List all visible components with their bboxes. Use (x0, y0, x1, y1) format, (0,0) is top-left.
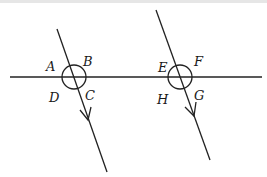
label-e: E (157, 60, 168, 75)
label-a: A (45, 59, 55, 74)
label-g: G (194, 88, 204, 103)
left-transversal (57, 29, 107, 172)
right-transversal (156, 10, 210, 160)
label-h: H (156, 92, 169, 107)
parallel-lines-diagram: A B C D E F G H (0, 0, 267, 177)
label-f: F (193, 54, 204, 69)
label-d: D (48, 90, 60, 105)
label-c: C (85, 88, 95, 103)
label-b: B (82, 54, 93, 69)
